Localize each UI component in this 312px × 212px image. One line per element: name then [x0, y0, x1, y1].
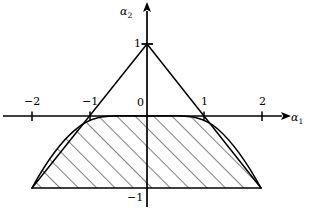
x-tick-label-neg2: −2	[24, 96, 40, 107]
x-tick-label-neg1: −1	[82, 96, 98, 107]
y-tick-label-pos1: 1	[134, 38, 141, 49]
y-axis-label: α2	[120, 6, 132, 20]
x-tick-label-pos1: 1	[201, 96, 208, 107]
origin-label: 0	[137, 97, 144, 108]
math-figure: −2 −1 1 2 0 1 −1 α1 α2	[0, 0, 312, 212]
y-tick-label-neg1: −1	[127, 192, 143, 203]
x-axis-label: α1	[291, 112, 303, 126]
x-tick-label-pos2: 2	[259, 96, 266, 107]
y-axis-label-sub: 2	[127, 11, 132, 20]
x-axis-label-sub: 1	[298, 117, 303, 126]
